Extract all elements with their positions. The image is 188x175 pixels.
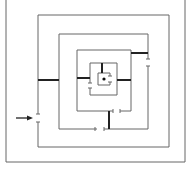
maze-diagram	[0, 0, 188, 175]
outer-frame	[6, 0, 185, 162]
ring-2	[59, 34, 148, 129]
entrance-arrow-icon	[16, 116, 33, 121]
center-dot	[102, 77, 105, 80]
